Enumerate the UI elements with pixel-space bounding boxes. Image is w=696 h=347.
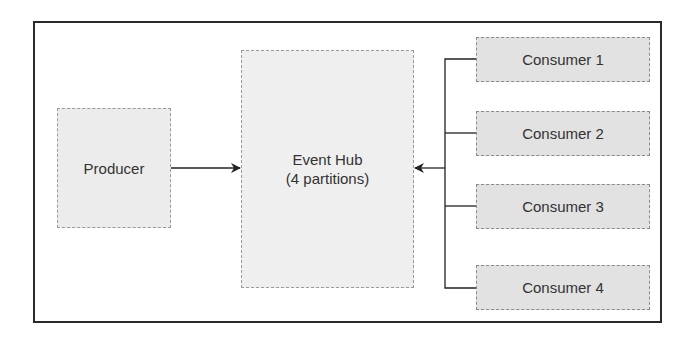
event-hub-title: Event Hub (292, 150, 362, 169)
consumer-4-node: Consumer 4 (476, 265, 650, 310)
producer-node: Producer (57, 108, 171, 228)
consumer-label: Consumer 1 (522, 50, 604, 69)
consumer-2-node: Consumer 2 (476, 111, 650, 156)
consumer-label: Consumer 3 (522, 197, 604, 216)
consumer-3-node: Consumer 3 (476, 184, 650, 229)
consumer-label: Consumer 4 (522, 278, 604, 297)
consumers-to-hub-connector (415, 59, 476, 288)
event-hub-node: Event Hub (4 partitions) (241, 50, 414, 288)
consumer-1-node: Consumer 1 (476, 37, 650, 82)
consumer-label: Consumer 2 (522, 124, 604, 143)
producer-label: Producer (84, 159, 145, 178)
event-hub-partitions: (4 partitions) (286, 169, 369, 188)
